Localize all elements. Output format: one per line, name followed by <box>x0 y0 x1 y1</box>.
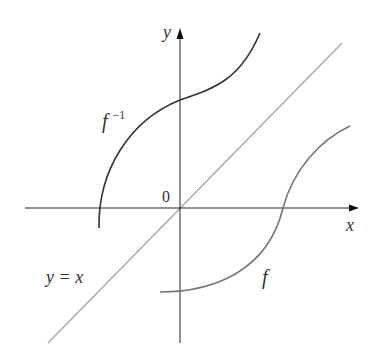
f-curve <box>160 126 350 292</box>
x-axis-label: x <box>345 215 354 235</box>
x-axis-arrow-icon <box>349 205 359 212</box>
identity-line-label: y = x <box>44 267 83 287</box>
identity-line <box>48 43 342 343</box>
f-inverse-curve <box>99 33 260 228</box>
f-inverse-label-base: f <box>102 110 110 133</box>
y-axis-label: y <box>161 22 171 42</box>
inverse-function-diagram: y x 0 f −1 f y = x <box>0 0 377 358</box>
f-label: f <box>262 266 270 289</box>
f-inverse-label-sup: −1 <box>113 108 126 122</box>
origin-label: 0 <box>162 188 170 205</box>
y-axis-arrow-icon <box>177 28 184 39</box>
f-inverse-label: f −1 <box>102 108 125 133</box>
